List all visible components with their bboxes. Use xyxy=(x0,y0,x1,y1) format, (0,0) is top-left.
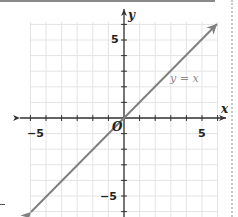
x-tick-label-neg5: −5 xyxy=(27,127,44,140)
coordinate-plane: −5 5 5 −5 y x O y = x xyxy=(0,0,238,217)
origin-label: O xyxy=(112,120,123,134)
y-axis-label: y xyxy=(127,8,136,22)
y-tick-label-5: 5 xyxy=(111,33,119,46)
y-tick-label-neg5: −5 xyxy=(100,190,117,203)
x-tick-label-5: 5 xyxy=(198,127,206,140)
x-axis-label: x xyxy=(220,102,229,116)
equation-label: y = x xyxy=(169,72,199,85)
